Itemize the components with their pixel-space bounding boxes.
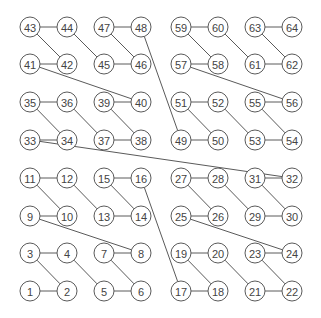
node-34: 34 [57,130,77,150]
node-label: 22 [286,286,298,298]
node-label: 52 [212,97,224,109]
node-63: 63 [245,17,265,37]
node-43: 43 [20,17,40,37]
node-39: 39 [94,92,114,112]
node-label: 15 [98,173,110,185]
node-64: 64 [282,17,302,37]
node-52: 52 [208,92,228,112]
node-60: 60 [208,17,228,37]
node-59: 59 [171,17,191,37]
node-label: 59 [175,22,187,34]
node-44: 44 [57,17,77,37]
node-12: 12 [57,168,77,188]
node-label: 55 [249,97,261,109]
edge-60-61 [225,34,248,57]
edge-44-45 [74,34,97,57]
node-18: 18 [208,281,228,301]
node-46: 46 [131,54,151,74]
node-30: 30 [282,206,302,226]
node-35: 35 [20,92,40,112]
edge-18-19 [188,260,211,284]
node-14: 14 [131,206,151,226]
edge-22-23 [262,260,285,284]
node-label: 14 [135,211,147,223]
node-8: 8 [131,243,151,263]
edge-26-27 [188,185,211,209]
node-label: 30 [286,211,298,223]
node-label: 43 [24,22,36,34]
node-4: 4 [57,243,77,263]
node-label: 60 [212,22,224,34]
node-label: 35 [24,97,36,109]
z-order-curve-diagram: 1234567891011121314151617181920212223242… [0,0,321,318]
node-58: 58 [208,54,228,74]
node-label: 4 [64,248,70,260]
node-label: 28 [212,173,224,185]
node-label: 21 [249,286,261,298]
node-40: 40 [131,92,151,112]
edge-58-59 [188,34,211,57]
edge-4-5 [74,260,97,284]
node-22: 22 [282,281,302,301]
node-label: 56 [286,97,298,109]
node-23: 23 [245,243,265,263]
node-16: 16 [131,168,151,188]
node-label: 47 [98,22,110,34]
node-label: 20 [212,248,224,260]
edge-14-15 [111,185,134,209]
node-47: 47 [94,17,114,37]
node-11: 11 [20,168,40,188]
edge-54-55 [262,109,285,133]
node-label: 1 [27,286,33,298]
node-label: 57 [175,59,187,71]
node-25: 25 [171,206,191,226]
node-label: 61 [249,59,261,71]
node-10: 10 [57,206,77,226]
node-2: 2 [57,281,77,301]
node-label: 3 [27,248,33,260]
node-label: 5 [101,286,107,298]
node-51: 51 [171,92,191,112]
node-label: 64 [286,22,298,34]
edge-52-53 [225,109,248,133]
edge-28-29 [225,185,248,209]
node-label: 12 [61,173,73,185]
node-label: 23 [249,248,261,260]
node-24: 24 [282,243,302,263]
edge-56-57 [191,67,283,99]
node-label: 63 [249,22,261,34]
node-label: 26 [212,211,224,223]
node-7: 7 [94,243,114,263]
node-label: 33 [24,135,36,147]
node-label: 18 [212,286,224,298]
node-1: 1 [20,281,40,301]
edge-62-63 [262,34,285,57]
node-29: 29 [245,206,265,226]
node-48: 48 [131,17,151,37]
node-label: 48 [135,22,147,34]
node-label: 53 [249,135,261,147]
edge-48-49 [144,36,177,130]
node-20: 20 [208,243,228,263]
node-label: 51 [175,97,187,109]
edge-38-39 [111,109,134,133]
node-label: 8 [138,248,144,260]
node-62: 62 [282,54,302,74]
edge-6-7 [111,260,134,284]
node-label: 11 [24,173,35,185]
edge-36-37 [74,109,97,133]
node-36: 36 [57,92,77,112]
node-label: 44 [61,22,73,34]
node-57: 57 [171,54,191,74]
node-5: 5 [94,281,114,301]
node-37: 37 [94,130,114,150]
node-41: 41 [20,54,40,74]
node-13: 13 [94,206,114,226]
node-label: 45 [98,59,110,71]
node-32: 32 [282,168,302,188]
edge-24-25 [191,219,283,250]
node-label: 41 [24,59,36,71]
node-label: 40 [135,97,147,109]
edge-12-13 [74,185,97,209]
node-33: 33 [20,130,40,150]
